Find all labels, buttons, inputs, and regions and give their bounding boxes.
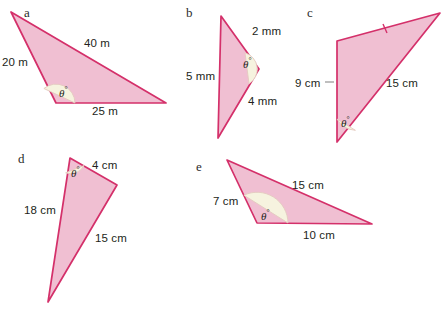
figure-letter-c: c — [307, 6, 313, 19]
label-e-side-10cm: 10 cm — [303, 230, 335, 242]
figure-letter-d: d — [18, 152, 25, 165]
degree-symbol: ° — [248, 56, 251, 65]
angle-label-e: θ° — [261, 209, 270, 222]
figure-letter-a: a — [24, 6, 30, 19]
label-d-side-18cm: 18 cm — [24, 205, 56, 217]
figure-letter-b: b — [186, 6, 193, 19]
angle-label-a: θ° — [59, 86, 68, 99]
angle-label-c: θ° — [341, 116, 350, 129]
triangle-d — [48, 158, 117, 302]
triangle-a — [11, 12, 166, 103]
label-b-side-4mm: 4 mm — [248, 96, 277, 108]
label-b-side-5mm: 5 mm — [186, 71, 215, 83]
degree-symbol: ° — [76, 165, 79, 174]
label-e-side-15cm: 15 cm — [292, 180, 324, 192]
triangles-diagram: aθ°20 m40 m25 mbθ°2 mm5 mm4 mmcθ°9 cm15 … — [0, 0, 443, 311]
degree-symbol: ° — [266, 208, 269, 217]
diagram-canvas — [0, 0, 443, 311]
label-d-side-15cm: 15 cm — [95, 233, 127, 245]
label-a-side-20m: 20 m — [2, 57, 28, 69]
degree-symbol: ° — [346, 115, 349, 124]
figure-letter-e: e — [196, 160, 202, 173]
label-e-side-7cm: 7 cm — [213, 196, 238, 208]
label-b-side-2mm: 2 mm — [252, 26, 281, 38]
label-d-side-4cm: 4 cm — [92, 160, 117, 172]
label-a-side-25m: 25 m — [92, 106, 118, 118]
label-a-side-40m: 40 m — [84, 38, 110, 50]
label-c-side-9cm: 9 cm — [295, 78, 320, 90]
triangle-e — [227, 160, 372, 224]
degree-symbol: ° — [64, 85, 67, 94]
label-c-side-15cm: 15 cm — [386, 78, 418, 90]
angle-label-d: θ° — [71, 166, 80, 179]
angle-label-b: θ° — [243, 57, 252, 70]
